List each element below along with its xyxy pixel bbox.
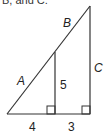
right-angle-marker-outer bbox=[82, 106, 90, 114]
triangle-diagram: A B C 5 4 3 bbox=[0, 0, 106, 137]
label-B: B bbox=[63, 16, 71, 30]
label-base-right: 3 bbox=[68, 120, 75, 134]
label-inner-height: 5 bbox=[60, 78, 67, 92]
label-C: C bbox=[94, 61, 103, 75]
right-angle-marker-inner bbox=[47, 106, 55, 114]
label-A: A bbox=[16, 74, 25, 88]
label-base-left: 4 bbox=[29, 120, 36, 134]
hypotenuse-line bbox=[7, 6, 90, 114]
